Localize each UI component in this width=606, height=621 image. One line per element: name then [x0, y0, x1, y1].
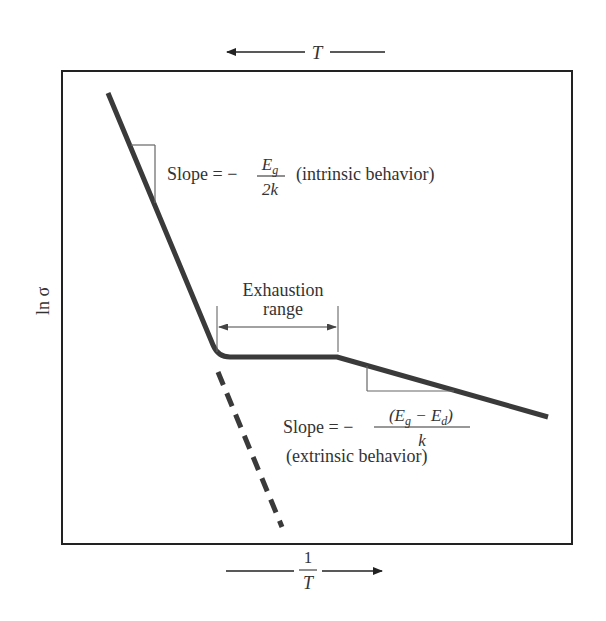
y-axis-label: ln σ — [33, 287, 53, 316]
intrinsic-slope-prefix: Slope = − — [167, 164, 237, 184]
extrinsic-description: (extrinsic behavior) — [286, 446, 427, 467]
plot-frame — [62, 71, 572, 544]
bottom-axis-denominator: T — [303, 573, 315, 593]
exhaustion-range-annotation: Exhaustion range — [217, 280, 338, 352]
dashed-extrapolation-line — [218, 372, 282, 527]
top-temperature-axis: T — [227, 42, 385, 63]
extrinsic-slope-label: Slope = − (Eg − Ed) k (extrinsic behavio… — [283, 406, 470, 467]
bottom-axis-numerator: 1 — [304, 548, 313, 567]
extrinsic-slope-prefix: Slope = − — [283, 417, 353, 437]
intrinsic-denominator: 2k — [262, 180, 279, 199]
intrinsic-numerator: Eg — [261, 155, 278, 177]
bottom-inverse-temperature-axis: 1 T — [226, 548, 382, 593]
top-axis-label: T — [312, 42, 324, 63]
intrinsic-description: (intrinsic behavior) — [296, 164, 434, 185]
extrinsic-numerator: (Eg − Ed) — [389, 406, 453, 428]
exhaustion-label-line2: range — [263, 299, 303, 319]
conductivity-curve — [108, 93, 548, 417]
conductivity-diagram: T ln σ Slope = − Eg 2k (intrinsic behavi… — [0, 0, 606, 621]
intrinsic-slope-label: Slope = − Eg 2k (intrinsic behavior) — [167, 155, 434, 199]
exhaustion-label-line1: Exhaustion — [243, 280, 324, 300]
